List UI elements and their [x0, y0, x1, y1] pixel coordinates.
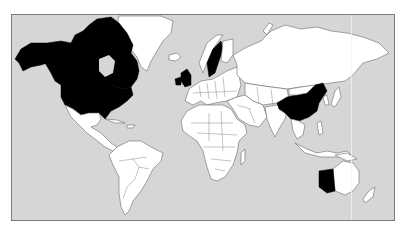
map-svg [12, 15, 394, 220]
western-australia [319, 169, 335, 193]
australia-east [333, 161, 359, 195]
cuba [105, 119, 125, 123]
finland [221, 39, 233, 63]
alaska [15, 43, 47, 71]
russia [233, 25, 389, 89]
iceland [169, 53, 181, 61]
japan [331, 87, 341, 107]
world-map [11, 14, 395, 221]
new-zealand [363, 187, 375, 203]
map-seam-line [351, 15, 352, 220]
united-kingdom [181, 69, 191, 87]
south-america [109, 141, 163, 215]
southeast-asia [291, 119, 305, 139]
korea [323, 95, 329, 105]
ireland [175, 77, 181, 85]
madagascar [241, 149, 245, 165]
philippines [317, 121, 323, 135]
hispaniola [127, 125, 135, 128]
